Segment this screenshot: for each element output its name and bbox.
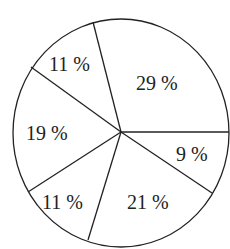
slice-label-19: 19 % bbox=[26, 122, 68, 144]
slice-label-9: 9 % bbox=[176, 143, 208, 165]
slice-label-11-bottom: 11 % bbox=[42, 191, 83, 213]
slice-label-11-top: 11 % bbox=[49, 53, 90, 75]
slice-label-29: 29 % bbox=[136, 72, 178, 94]
slice-label-21: 21 % bbox=[127, 191, 169, 213]
pie-chart: 29 % 11 % 19 % 11 % 21 % 9 % bbox=[0, 0, 230, 249]
